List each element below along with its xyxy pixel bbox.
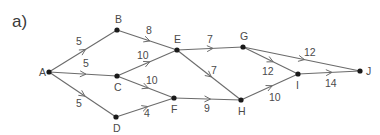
node-label: J — [366, 65, 371, 77]
edge-weight: 7 — [211, 64, 217, 76]
network-graph: 55581010477912121014 ABCDEFGHIJ — [0, 0, 380, 135]
node-label: E — [174, 33, 181, 45]
edge-G-J — [243, 47, 360, 71]
node-G — [240, 44, 245, 49]
node-A — [46, 69, 51, 74]
arrow-icon — [78, 90, 85, 96]
edge-weight: 8 — [146, 24, 152, 36]
edge-F-H — [174, 98, 241, 100]
edge-weight: 10 — [146, 74, 158, 86]
node-label: C — [114, 81, 122, 93]
node-label: H — [238, 105, 246, 117]
node-label: F — [171, 103, 177, 115]
edge-E-H — [177, 50, 241, 100]
node-B — [114, 27, 119, 32]
edge-A-D — [49, 72, 116, 117]
node-F — [171, 95, 176, 100]
node-H — [238, 97, 243, 102]
edge-weight: 4 — [144, 107, 150, 119]
node-label: D — [113, 122, 121, 134]
edge-weight: 5 — [76, 35, 82, 47]
node-I — [295, 71, 300, 76]
node-E — [174, 47, 179, 52]
node-label: G — [240, 30, 248, 42]
node-label: I — [296, 79, 299, 91]
node-label: A — [39, 66, 46, 78]
edge-weight: 9 — [204, 102, 210, 114]
edge-weight: 10 — [269, 91, 281, 103]
node-D — [113, 114, 118, 119]
node-C — [114, 73, 119, 78]
edge-weight: 10 — [137, 49, 149, 61]
arrow-icon — [79, 49, 86, 55]
edge-weight: 12 — [262, 65, 274, 77]
edge-weight: 14 — [325, 77, 337, 89]
edge-weight: 7 — [207, 33, 213, 45]
node-label: B — [115, 13, 122, 25]
nodes-layer: ABCDEFGHIJ — [39, 13, 371, 134]
edge-weight: 5 — [76, 97, 82, 109]
node-J — [357, 68, 362, 73]
edge-weight: 12 — [304, 46, 316, 58]
edge-weight: 5 — [83, 57, 89, 69]
